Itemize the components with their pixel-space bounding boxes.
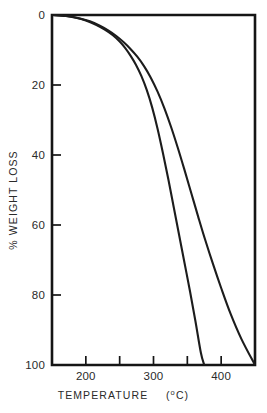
x-tick-labels: 200300400 — [76, 370, 231, 382]
chart-canvas: 020406080100 200300400 % WEIGHT LOSS TEM… — [0, 0, 267, 413]
y-tick-label: 40 — [32, 149, 45, 161]
tga-figure: 020406080100 200300400 % WEIGHT LOSS TEM… — [0, 0, 267, 413]
y-tick-labels: 020406080100 — [25, 9, 45, 371]
x-tick-label: 300 — [144, 370, 164, 382]
curve-left — [53, 15, 204, 365]
x-tick-label: 200 — [76, 370, 96, 382]
y-tick-label: 0 — [38, 9, 45, 21]
x-tick-label: 400 — [211, 370, 231, 382]
y-tick-label: 80 — [32, 289, 45, 301]
x-axis-title-main: TEMPERATURE — [58, 389, 149, 401]
y-tick-label: 100 — [25, 359, 45, 371]
plot-frame — [52, 15, 255, 365]
y-tick-label: 60 — [32, 219, 45, 231]
x-axis-title-unit: (oC) — [166, 388, 189, 401]
y-axis-title: % WEIGHT LOSS — [7, 150, 19, 249]
x-axis-unit-rest: C) — [176, 389, 189, 401]
y-tick-marks — [52, 85, 61, 295]
curve-right — [53, 15, 255, 365]
y-tick-label: 20 — [32, 79, 45, 91]
x-axis-title: TEMPERATURE — [58, 389, 149, 401]
